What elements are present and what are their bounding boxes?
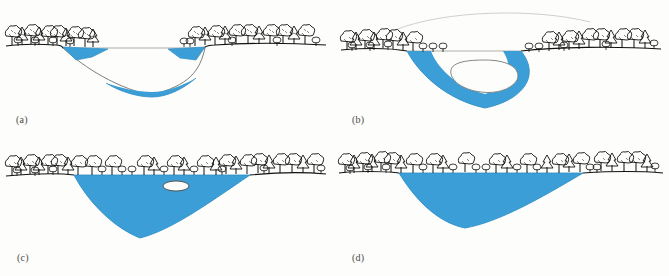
ground-line-right [204,44,326,49]
ground-line-right [583,172,663,174]
panel-a: (a) [0,0,334,138]
forest-left [338,151,407,174]
panel-label-b: (b) [352,114,364,125]
forest-right [210,153,325,175]
ground-line-left [339,172,399,174]
forest-right [552,151,659,173]
forest-center [85,155,213,175]
small-island [163,181,189,191]
figure-panel-grid: (a) [0,0,669,276]
panel-c: (c) [0,138,334,276]
ground-line-right [250,173,326,175]
panel-label-a: (a) [16,114,28,125]
panel-label-c: (c) [17,252,29,263]
panel-b: (b) [335,0,669,138]
ground-line-left [6,44,63,48]
forest-left [5,154,87,176]
forest-left [340,28,447,52]
forest-center [406,152,553,173]
ghost-former-ice-surface [395,13,590,30]
forest-left [5,24,99,47]
ground-line-left [6,174,74,176]
panel-d: (d) [335,138,669,276]
panel-label-d: (d) [352,252,364,263]
water-body [74,175,250,238]
water-body [399,173,583,228]
